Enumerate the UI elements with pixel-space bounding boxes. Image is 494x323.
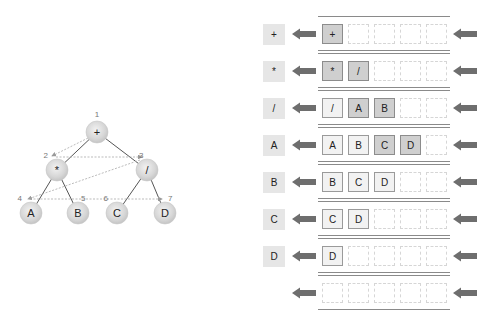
enqueue-arrow-icon bbox=[453, 139, 477, 151]
queue-border-bottom bbox=[318, 124, 450, 125]
queue-border-bottom bbox=[318, 309, 450, 310]
queue-step-row: //AB bbox=[0, 90, 494, 127]
dequeued-output-box: B bbox=[263, 172, 285, 193]
dequeue-arrow-icon bbox=[292, 139, 316, 151]
queue-cell-empty bbox=[426, 135, 447, 155]
queue-cell: A bbox=[348, 98, 369, 118]
queue-step-row: ++ bbox=[0, 16, 494, 53]
enqueue-arrow-icon bbox=[453, 176, 477, 188]
queue-cell-empty bbox=[348, 246, 369, 266]
queue-cell-empty bbox=[426, 172, 447, 192]
queue-cell-empty bbox=[426, 24, 447, 44]
dequeued-output-box: + bbox=[263, 24, 285, 45]
queue-cell-empty bbox=[400, 98, 421, 118]
queue-cell-empty bbox=[348, 283, 369, 303]
enqueue-arrow-icon bbox=[453, 213, 477, 225]
queue-cell-empty bbox=[348, 24, 369, 44]
queue-cell-empty bbox=[374, 246, 395, 266]
queue-cell-empty bbox=[322, 283, 343, 303]
queue-step-row: CCD bbox=[0, 201, 494, 238]
queue-border-bottom bbox=[318, 50, 450, 51]
queue-cell-empty bbox=[426, 209, 447, 229]
queue-cell-empty bbox=[400, 283, 421, 303]
dequeue-arrow-icon bbox=[292, 213, 316, 225]
queue-cell-empty bbox=[400, 209, 421, 229]
queue-cell: / bbox=[322, 98, 343, 118]
queue-border-bottom bbox=[318, 272, 450, 273]
queue-cell: C bbox=[322, 209, 343, 229]
queue-cell: D bbox=[374, 172, 395, 192]
queue-cell-empty bbox=[426, 246, 447, 266]
queue-cell: / bbox=[348, 61, 369, 81]
queue-cell: D bbox=[400, 135, 421, 155]
queue-cell: D bbox=[322, 246, 343, 266]
queue-step-row: DD bbox=[0, 238, 494, 275]
queue-cell: + bbox=[322, 24, 343, 44]
queue-cell: C bbox=[348, 172, 369, 192]
queue-border-top bbox=[318, 164, 450, 165]
dequeued-output-box: * bbox=[263, 61, 285, 82]
enqueue-arrow-icon bbox=[453, 287, 477, 299]
dequeue-arrow-icon bbox=[292, 102, 316, 114]
queue-cell-empty bbox=[400, 246, 421, 266]
queue-step-row: BBCD bbox=[0, 164, 494, 201]
dequeue-arrow-icon bbox=[292, 287, 316, 299]
enqueue-arrow-icon bbox=[453, 28, 477, 40]
queue-cell-empty bbox=[374, 209, 395, 229]
queue-border-bottom bbox=[318, 235, 450, 236]
enqueue-arrow-icon bbox=[453, 250, 477, 262]
queue-cell: A bbox=[322, 135, 343, 155]
queue-cell-empty bbox=[426, 98, 447, 118]
queue-step-row: AABCD bbox=[0, 127, 494, 164]
queue-border-top bbox=[318, 127, 450, 128]
dequeue-arrow-icon bbox=[292, 250, 316, 262]
queue-cell-empty bbox=[374, 61, 395, 81]
queue-border-top bbox=[318, 238, 450, 239]
queue-border-bottom bbox=[318, 87, 450, 88]
enqueue-arrow-icon bbox=[453, 102, 477, 114]
queue-cell-empty bbox=[426, 61, 447, 81]
queue-cell: B bbox=[348, 135, 369, 155]
queue-cell: B bbox=[374, 98, 395, 118]
dequeued-output-box: / bbox=[263, 98, 285, 119]
queue-border-top bbox=[318, 275, 450, 276]
queue-cell: D bbox=[348, 209, 369, 229]
dequeue-arrow-icon bbox=[292, 176, 316, 188]
enqueue-arrow-icon bbox=[453, 65, 477, 77]
queue-border-top bbox=[318, 90, 450, 91]
queue-cell-empty bbox=[400, 24, 421, 44]
queue-cell: B bbox=[322, 172, 343, 192]
dequeue-arrow-icon bbox=[292, 65, 316, 77]
queue-border-top bbox=[318, 53, 450, 54]
queue-step-row: **/ bbox=[0, 53, 494, 90]
queue-cell-empty bbox=[426, 283, 447, 303]
queue-cell: C bbox=[374, 135, 395, 155]
dequeue-arrow-icon bbox=[292, 28, 316, 40]
dequeued-output-box: D bbox=[263, 246, 285, 267]
queue-cell-empty bbox=[400, 61, 421, 81]
queue-cell-empty bbox=[374, 283, 395, 303]
queue-step-row bbox=[0, 275, 494, 312]
queue-cell: * bbox=[322, 61, 343, 81]
queue-border-top bbox=[318, 16, 450, 17]
queue-border-bottom bbox=[318, 198, 450, 199]
dequeued-output-box: C bbox=[263, 209, 285, 230]
queue-border-bottom bbox=[318, 161, 450, 162]
queue-cell-empty bbox=[400, 172, 421, 192]
dequeued-output-box: A bbox=[263, 135, 285, 156]
queue-border-top bbox=[318, 201, 450, 202]
queue-cell-empty bbox=[374, 24, 395, 44]
